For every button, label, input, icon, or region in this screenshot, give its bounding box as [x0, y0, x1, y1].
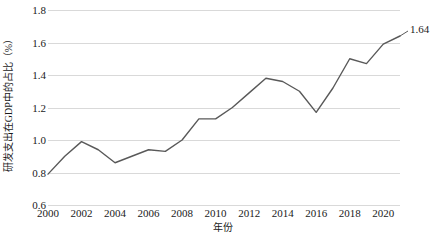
- x-axis-title: 年份: [0, 223, 435, 233]
- y-tick-label: 0.8: [16, 168, 46, 179]
- y-tick-label: 1.0: [16, 135, 46, 146]
- line-chart: 研发支出在GDP中的占比（%） 0.60.81.01.21.41.61.8 1.…: [0, 0, 435, 239]
- y-tick-label: 1.2: [16, 103, 46, 114]
- y-tick-label: 1.4: [16, 70, 46, 81]
- y-tick-label: 1.8: [16, 5, 46, 16]
- y-axis-title-text: 研发支出在GDP中的占比（%）: [4, 33, 14, 171]
- data-label-final: 1.64: [410, 24, 429, 35]
- plot-area: [48, 10, 400, 205]
- y-tick-label: 1.6: [16, 38, 46, 49]
- y-axis-tick-labels: 0.60.81.01.21.41.61.8: [14, 0, 46, 239]
- data-series-line: [48, 10, 400, 205]
- x-tick-label: 2020: [361, 208, 405, 219]
